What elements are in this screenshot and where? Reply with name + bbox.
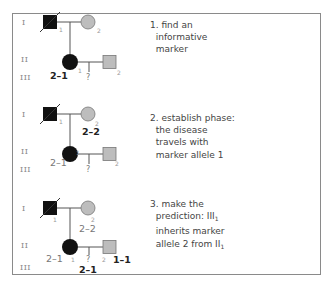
generation-label-III: III: [20, 165, 31, 174]
individual-I2-female-icon: [81, 15, 95, 29]
generation-label-II: II: [21, 55, 28, 64]
individual-I2-female-icon: [81, 201, 95, 215]
individual-II2-male-icon: [103, 56, 116, 69]
generation-label-I: I: [22, 18, 26, 27]
genotype-II1: 2–1: [46, 253, 63, 264]
unknown-III1: ?: [86, 73, 90, 82]
individual-II2-male-icon: [103, 148, 116, 161]
individual-II1-female-affected-icon: [62, 239, 78, 255]
generation-label-III: III: [20, 73, 31, 82]
step-description: 2. establish phase: the disease travels …: [150, 112, 235, 161]
genotype-I2: 2–2: [82, 126, 100, 137]
generation-label-II: II: [21, 147, 28, 156]
number-I2: 2: [97, 27, 101, 34]
number-I1: 1: [59, 26, 63, 33]
subscript: 1: [220, 243, 224, 250]
individual-II1-female-affected-icon: [62, 54, 78, 70]
generation-label-I: I: [22, 204, 26, 213]
panel-step-2: I II III 1 2 2–2 1 2 2–1 ? 2. establish …: [0, 92, 329, 182]
individual-II2-male-icon: [103, 241, 116, 254]
genotype-II1: 2–1: [50, 157, 67, 168]
number-II1: 1: [76, 149, 80, 156]
genotype-II1: 2–1: [50, 70, 68, 81]
generation-label-II: II: [21, 241, 28, 250]
number-II2: 2: [117, 69, 121, 76]
panel-step-3: I II III 1 2 2–2 2–1 1 ? 2 1–1 2–1 3. ma…: [0, 186, 329, 276]
number-I1: 1: [53, 216, 57, 223]
step-description: 1. find an informative marker: [150, 19, 207, 56]
unknown-III1: ?: [86, 165, 90, 174]
number-I1: 1: [59, 118, 63, 125]
number-II2: 2: [115, 160, 119, 167]
genotype-II2: 1–1: [113, 254, 131, 265]
number-II1: 1: [78, 67, 82, 74]
number-II2: 2: [102, 256, 106, 263]
number-I2: 2: [91, 216, 95, 223]
genotype-III1: 2–1: [79, 264, 97, 275]
number-II1: 1: [71, 256, 75, 263]
generation-label-I: I: [22, 110, 26, 119]
step-description: 3. make the prediction: III1 inherits ma…: [150, 198, 225, 253]
unknown-III1: ?: [86, 255, 90, 264]
individual-I2-female-icon: [81, 107, 95, 121]
panel-step-1: I II III 1 2 1 2 2–1 ? 1. find an inform…: [0, 0, 329, 90]
generation-label-III: III: [20, 263, 31, 272]
genotype-I2: 2–2: [79, 223, 96, 234]
subscript: 1: [215, 215, 219, 222]
